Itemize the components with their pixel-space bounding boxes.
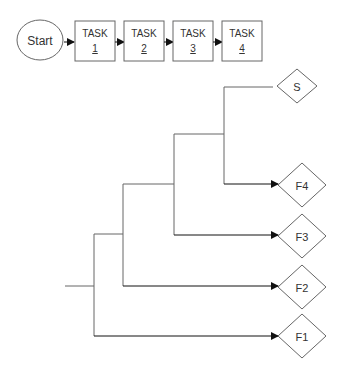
- task-4-number: 4: [239, 43, 245, 54]
- event-tree-branches: [65, 87, 273, 336]
- task-3-node: TASK 3: [173, 21, 213, 61]
- task-3-number: 3: [190, 43, 196, 54]
- task-4-title: TASK: [229, 28, 255, 39]
- outcome-f1-label: F1: [296, 331, 309, 343]
- task-4-node: TASK 4: [222, 21, 262, 61]
- task-1-node: TASK 1: [75, 21, 115, 61]
- outcome-f3: F3: [278, 214, 326, 258]
- outcome-f1: F1: [278, 314, 326, 358]
- diagram-canvas: Start TASK 1 TASK 2 TASK 3 TASK 4: [0, 0, 345, 377]
- outcome-f2: F2: [278, 265, 326, 309]
- task-2-number: 2: [141, 43, 147, 54]
- task-1-title: TASK: [82, 28, 108, 39]
- outcome-s-label: S: [293, 81, 300, 93]
- outcome-f4-label: F4: [296, 180, 309, 192]
- task-3-title: TASK: [180, 28, 206, 39]
- task-1-number: 1: [92, 43, 98, 54]
- outcome-s: S: [277, 69, 317, 103]
- start-node: Start: [17, 20, 63, 60]
- outcome-f2-label: F2: [296, 282, 309, 294]
- outcome-f3-label: F3: [296, 231, 309, 243]
- outcome-f4: F4: [278, 163, 326, 207]
- task-2-title: TASK: [131, 28, 157, 39]
- start-label: Start: [27, 34, 53, 48]
- task-2-node: TASK 2: [124, 21, 164, 61]
